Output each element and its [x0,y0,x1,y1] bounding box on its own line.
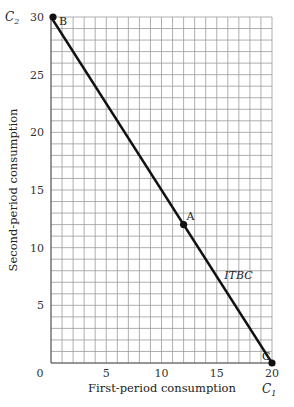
x-axis-symbol: C1 [262,382,276,398]
x-tick-label: 15 [210,367,224,380]
point-b [49,13,56,20]
y-tick-labels: 51015202530 [30,11,44,312]
point-label-a: A [186,210,196,223]
intertemporal-budget-chart: 05101520 51015202530 BAC First-period co… [0,0,294,407]
y-tick-label: 30 [30,11,44,24]
y-tick-label: 25 [30,69,44,82]
annotations: ITBC [223,269,253,282]
y-axis-symbol: C2 [5,10,19,26]
point-label-b: B [59,15,67,28]
y-tick-label: 20 [30,126,44,139]
x-tick-label: 5 [103,367,110,380]
x-tick-label: 20 [265,367,279,380]
y-tick-label: 10 [30,242,44,255]
series-label-itbc: ITBC [223,269,253,282]
x-tick-labels: 05101520 [37,367,280,380]
x-axis-label: First-period consumption [88,381,236,395]
y-tick-label: 5 [37,299,44,312]
x-tick-label: 10 [155,367,169,380]
x-tick-label: 0 [37,367,44,380]
y-axis-label: Second-period consumption [6,108,20,272]
point-label-c: C [262,350,270,363]
y-tick-label: 15 [30,184,44,197]
